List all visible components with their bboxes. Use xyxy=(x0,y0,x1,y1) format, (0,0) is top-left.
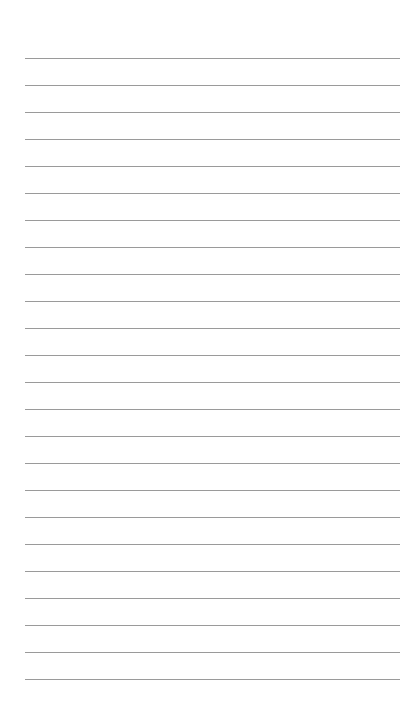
ruled-line xyxy=(25,355,400,356)
ruled-line xyxy=(25,220,400,221)
bleed-through-text xyxy=(0,0,418,8)
ruled-line xyxy=(25,436,400,437)
ruled-line xyxy=(25,490,400,491)
ruled-line xyxy=(25,58,400,59)
ruled-line xyxy=(25,409,400,410)
ruled-line xyxy=(25,382,400,383)
ruled-line xyxy=(25,112,400,113)
ruled-line xyxy=(25,139,400,140)
ruled-line xyxy=(25,517,400,518)
ruled-line xyxy=(25,247,400,248)
ruled-line xyxy=(25,274,400,275)
ruled-line xyxy=(25,598,400,599)
ruled-line xyxy=(25,85,400,86)
ruled-line xyxy=(25,193,400,194)
ruled-line xyxy=(25,679,400,680)
ruled-line xyxy=(25,544,400,545)
ruled-line xyxy=(25,463,400,464)
ruled-line xyxy=(25,301,400,302)
lined-paper-page xyxy=(0,0,418,712)
ruled-line xyxy=(25,652,400,653)
ruled-line xyxy=(25,571,400,572)
ruled-line xyxy=(25,328,400,329)
ruled-line xyxy=(25,625,400,626)
ruled-line xyxy=(25,166,400,167)
